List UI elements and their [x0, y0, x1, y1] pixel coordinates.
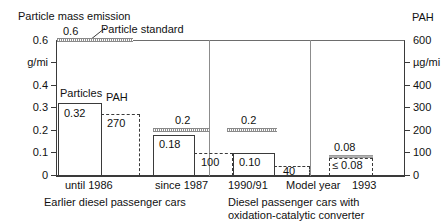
standard-marker-2 [153, 128, 210, 132]
right-tick-300 [405, 107, 410, 108]
category-label-3: 1990/91 [228, 180, 268, 191]
series-label-particles: Particles [60, 88, 102, 99]
group-caption-2-line2: oxidation-catalytic converter [228, 210, 364, 221]
right-tick-label-400: 400 [413, 80, 444, 91]
chart-figure: Particle mass emission 0.6 Particle stan… [0, 0, 444, 224]
right-tick-label-200: 200 [413, 125, 444, 136]
bar-value-particles-1: 0.32 [64, 108, 85, 119]
bar-value-particles-3: 0.10 [239, 157, 260, 168]
group-caption-1: Earlier diesel passenger cars [44, 197, 186, 208]
left-tick-0.3 [51, 107, 56, 108]
left-tick-0.5 [51, 62, 56, 63]
left-tick-label-0.3: 0.3 [14, 102, 48, 113]
standard-marker-3 [227, 128, 277, 132]
series-label-pah: PAH [106, 92, 128, 103]
left-tick-label-0.4: 0.4 [14, 80, 48, 91]
right-tick-0 [405, 175, 410, 176]
left-tick-0.4 [51, 85, 56, 86]
bar-value-pah-3: 40 [283, 166, 295, 177]
right-tick-100 [405, 152, 410, 153]
left-tick-label-0.1: 0.1 [14, 147, 48, 158]
category-label-4: 1993 [352, 180, 376, 191]
standard-value-label-4: 0.08 [334, 142, 355, 153]
bar-value-pah-2: 100 [201, 157, 219, 168]
right-tick-label-0: 0 [413, 170, 444, 181]
right-tick-500 [405, 62, 410, 63]
right-tick-label-100: 100 [413, 147, 444, 158]
x-axis-title: Model year [286, 180, 340, 191]
standard-value-label-3: 0.2 [241, 115, 256, 126]
left-tick-label-0.2: 0.2 [14, 125, 48, 136]
standard-marker-1 [57, 38, 133, 42]
right-tick-label-300: 300 [413, 102, 444, 113]
left-axis-unit: g/mi [14, 57, 48, 68]
bar-value-particles-4: ≤ 0.08 [332, 160, 363, 171]
left-tick-label-0.6: 0.6 [14, 35, 48, 46]
category-label-2: since 1987 [155, 180, 208, 191]
left-tick-0.2 [51, 130, 56, 131]
right-axis-title: PAH [412, 12, 434, 23]
group-caption-2-line1: Diesel passenger cars with [228, 197, 359, 208]
bar-value-particles-2: 0.18 [159, 139, 180, 150]
bar-value-pah-1: 270 [107, 118, 125, 129]
right-tick-400 [405, 85, 410, 86]
left-tick-0.1 [51, 152, 56, 153]
standard-value-label-2: 0.2 [175, 115, 190, 126]
left-tick-label-0: 0 [14, 170, 48, 181]
right-tick-200 [405, 130, 410, 131]
right-axis-unit: µg/mi [413, 57, 444, 68]
standard-top-value-label: 0.6 [63, 26, 78, 37]
particle-standard-annotation: Particle standard [101, 24, 184, 35]
right-tick-label-600: 600 [413, 35, 444, 46]
chart-title: Particle mass emission [18, 11, 130, 22]
panel-divider-2 [310, 40, 311, 176]
left-tick-0 [51, 175, 56, 176]
category-label-1: until 1986 [65, 180, 113, 191]
